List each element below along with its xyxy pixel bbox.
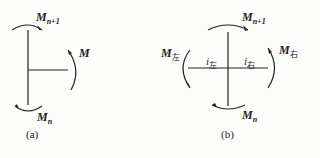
a-caption: (a) xyxy=(26,128,38,140)
b-top-moment-arc xyxy=(208,25,248,30)
b-label-m-right-sub: 右 xyxy=(290,50,298,59)
b-label-i-left: i左 xyxy=(206,55,217,67)
b-caption: (b) xyxy=(221,128,234,140)
b-label-m-right: M右 xyxy=(279,43,298,58)
a-label-m-top-main: M xyxy=(36,10,47,24)
a-label-m-bottom: Mn xyxy=(37,110,52,125)
b-label-m-left: M左 xyxy=(161,46,180,61)
b-label-m-bottom: Mn xyxy=(242,108,257,123)
b-label-m-right-main: M xyxy=(279,43,290,57)
a-label-m-bottom-sub: n xyxy=(48,117,52,126)
b-label-m-top-sub: n+1 xyxy=(253,17,266,26)
b-label-i-right: i右 xyxy=(244,55,255,67)
a-label-m-right: M xyxy=(79,46,90,61)
b-label-m-bottom-sub: n xyxy=(253,115,257,124)
a-label-m-bottom-main: M xyxy=(37,110,48,124)
b-label-i-left-sub: 左 xyxy=(209,61,217,70)
b-left-moment-arc xyxy=(183,50,190,88)
a-right-moment-arc xyxy=(68,50,76,90)
b-label-m-left-sub: 左 xyxy=(172,53,180,62)
a-label-m-top-sub: n+1 xyxy=(47,17,60,26)
a-label-m-right-main: M xyxy=(79,46,90,60)
b-label-i-right-sub: 右 xyxy=(247,61,255,70)
a-label-m-top: Mn+1 xyxy=(36,10,60,25)
b-label-m-left-main: M xyxy=(161,46,172,60)
b-label-m-top-main: M xyxy=(242,10,253,24)
b-right-moment-arc xyxy=(268,48,275,88)
a-right-arrowhead-icon xyxy=(68,50,72,55)
b-label-m-top: Mn+1 xyxy=(242,10,266,25)
b-label-m-bottom-main: M xyxy=(242,108,253,122)
